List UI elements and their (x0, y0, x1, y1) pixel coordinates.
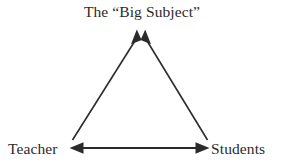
arrowhead-icon-left-baseline (70, 142, 84, 154)
diagram-canvas: The “Big Subject” Teacher Students (0, 0, 284, 167)
arrowhead-icon-right-baseline (196, 142, 210, 154)
node-label-teacher: Teacher (8, 141, 58, 157)
node-label-big-subject: The “Big Subject” (0, 4, 284, 20)
edge-line-teacher-to-big-subject (73, 40, 136, 140)
arrowhead-icon-up-right-apex (141, 30, 151, 45)
edge-line-students-to-big-subject (147, 40, 208, 140)
edge-students-to-big-subject (141, 30, 208, 141)
arrowhead-icon-up-left-apex (131, 30, 142, 45)
edge-teacher-to-big-subject (73, 30, 142, 141)
node-label-students: Students (211, 141, 265, 157)
edge-teacher-students-bidirectional (70, 142, 210, 154)
